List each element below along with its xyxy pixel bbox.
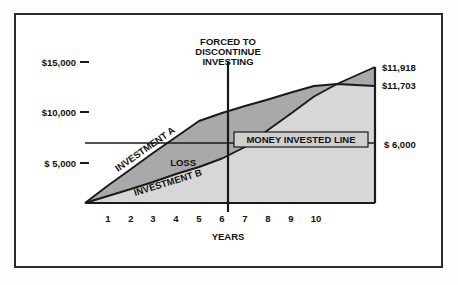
- investment-growth-chart: $15,000 $10,000 $ 5,000 1 2 3 4 5 6 7 8 …: [0, 0, 458, 285]
- x-tick-label-2: 2: [128, 213, 133, 224]
- right-label-money-invested: $ 6,000: [384, 139, 416, 150]
- right-label-investment-b-end: $11,918: [382, 62, 416, 73]
- right-label-investment-a-end: $11,703: [382, 80, 416, 91]
- x-tick-label-7: 7: [242, 213, 247, 224]
- x-tick-label-4: 4: [173, 213, 179, 224]
- x-axis-title: YEARS: [212, 231, 245, 242]
- x-tick-label-1: 1: [105, 213, 111, 224]
- x-tick-label-9: 9: [288, 213, 293, 224]
- x-tick-label-3: 3: [150, 213, 155, 224]
- loss-label: LOSS: [170, 157, 196, 168]
- x-tick-label-10: 10: [311, 213, 322, 224]
- x-tick-label-8: 8: [265, 213, 270, 224]
- discontinue-headline-line3: INVESTING: [202, 56, 253, 67]
- money-invested-line-label: MONEY INVESTED LINE: [246, 134, 355, 145]
- x-tick-label-6: 6: [219, 213, 224, 224]
- y-tick-label-15000: $15,000: [42, 57, 76, 68]
- x-tick-label-5: 5: [196, 213, 202, 224]
- y-tick-label-5000: $ 5,000: [44, 158, 76, 169]
- y-tick-label-10000: $10,000: [42, 107, 76, 118]
- figure-canvas: $15,000 $10,000 $ 5,000 1 2 3 4 5 6 7 8 …: [0, 0, 458, 285]
